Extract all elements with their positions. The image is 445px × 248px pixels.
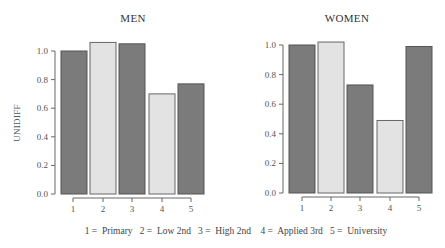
bar-4: [377, 120, 403, 193]
bar-3: [347, 85, 373, 193]
bar-5: [406, 46, 432, 193]
chart-canvas: MEN UNIDIFF 0.00.20.40.60.81.0 12345 WOM…: [0, 0, 445, 248]
x-tick-label: 4: [160, 204, 165, 214]
x-tick-label: 2: [101, 204, 106, 214]
y-tick-label: 0.4: [265, 129, 277, 139]
men-bars: [61, 42, 204, 194]
y-tick-label: 0.4: [37, 132, 49, 142]
men-y-axis: 0.00.20.40.60.81.0: [37, 46, 55, 199]
x-tick-label: 3: [358, 203, 363, 213]
x-tick-label: 5: [417, 203, 422, 213]
x-tick-label: 2: [329, 203, 334, 213]
x-tick-label: 1: [300, 203, 305, 213]
x-tick-label: 4: [388, 203, 393, 213]
men-chart-title: MEN: [120, 12, 145, 24]
women-y-axis: 0.00.20.40.60.81.0: [265, 40, 283, 198]
women-bars: [289, 42, 432, 193]
y-tick-label: 0.0: [265, 188, 277, 198]
y-tick-label: 0.0: [37, 189, 49, 199]
bar-1: [61, 51, 87, 194]
bar-2: [318, 42, 344, 193]
x-tick-label: 1: [71, 204, 76, 214]
y-tick-label: 1.0: [265, 40, 277, 50]
y-tick-label: 0.8: [37, 75, 49, 85]
bar-1: [289, 45, 315, 193]
y-tick-label: 0.6: [265, 99, 277, 109]
x-tick-label: 5: [189, 204, 194, 214]
men-panel: MEN UNIDIFF 0.00.20.40.60.81.0 12345: [12, 12, 204, 214]
x-tick-label: 3: [130, 204, 135, 214]
women-x-axis: 12345: [300, 197, 422, 213]
y-tick-label: 0.8: [265, 70, 277, 80]
y-tick-label: 0.6: [37, 103, 49, 113]
bar-2: [90, 42, 116, 194]
bar-3: [119, 44, 145, 194]
y-axis-label: UNIDIFF: [12, 104, 22, 142]
y-tick-label: 1.0: [37, 46, 49, 56]
bar-5: [178, 84, 204, 194]
y-tick-label: 0.2: [265, 158, 276, 168]
men-x-axis: 12345: [71, 198, 194, 214]
category-legend: 1 = Primary 2 = Low 2nd 3 = High 2nd 4 =…: [85, 226, 388, 236]
women-chart-title: WOMEN: [325, 12, 369, 24]
women-panel: WOMEN 0.00.20.40.60.81.0 12345: [265, 12, 432, 213]
y-tick-label: 0.2: [37, 160, 48, 170]
bar-4: [149, 94, 175, 194]
